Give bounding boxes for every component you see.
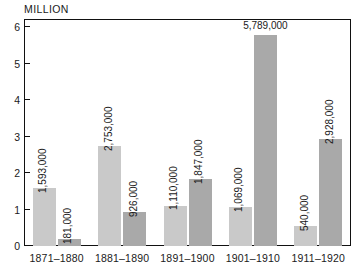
bar [319,139,342,246]
y-axis-tick-label: 2 [0,168,20,178]
bar [229,207,252,246]
y-axis-tick-label: 0 [0,241,20,251]
x-axis-group-label: 1911–1920 [292,252,346,264]
y-axis-unit-caption: MILLION [24,3,69,15]
bar [254,35,277,246]
bar [98,146,121,246]
y-axis-tick-label: 3 [0,132,20,142]
bar-value-label: 926,000 [129,181,139,217]
bar-value-label: 1,069,000 [234,167,244,212]
bar-chart: MILLION 0123456 1871–18801881–18901891–1… [0,0,362,274]
bar [123,212,146,246]
bar-value-label: 1,847,000 [194,139,204,184]
bar-value-label: 540,000 [300,195,310,231]
x-axis-group-label: 1891–1900 [160,252,214,264]
y-axis-tick-label: 6 [0,22,20,32]
bar-value-label: 2,928,000 [325,100,335,145]
x-axis-group-label: 1901–1910 [226,252,280,264]
bar-value-label: 1,593,000 [38,148,48,193]
y-axis-tick-label: 5 [0,59,20,69]
y-axis-tick-label: 4 [0,95,20,105]
bar [164,206,187,247]
x-axis-group-label: 1881–1890 [95,252,149,264]
bar-value-label: 1,110,000 [169,167,179,211]
bar-value-label: 5,789,000 [243,21,288,31]
bar-value-label: 181,000 [63,208,73,244]
y-axis-tick-label: 1 [0,205,20,215]
bar [189,179,212,246]
bar [33,188,56,246]
bar-value-label: 2,753,000 [104,106,114,151]
x-axis-group-label: 1871–1880 [30,252,84,264]
